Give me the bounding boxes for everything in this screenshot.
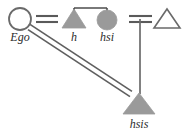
husband-label: h [71,30,77,44]
husband-sister-node[interactable] [97,10,117,30]
kinship-diagram-canvas: Ego h hsi hsis [0,0,186,133]
double-diagonal-lower-line [28,30,130,97]
double-diagonal-upper-line [30,24,132,91]
husband-sister-label: hsi [100,30,114,44]
husband-sister-husband-node[interactable] [154,9,180,28]
double-diagonal-link-ego-hsis [28,24,132,96]
husband-sister-son-label: hsis [130,117,149,131]
husband-node[interactable] [62,9,86,28]
ego-node[interactable] [9,8,31,30]
marriage-link-ego-h [36,16,58,22]
ego-label: Ego [9,30,29,44]
kinship-diagram-svg: Ego h hsi hsis [0,0,186,133]
